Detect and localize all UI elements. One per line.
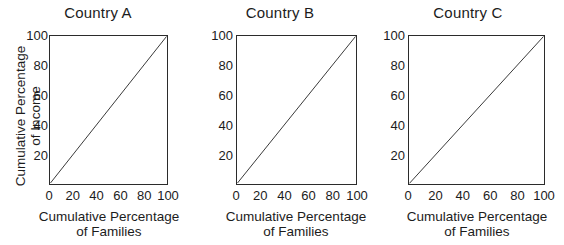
x-axis-label-line1: Cumulative Percentage: [407, 209, 547, 224]
panel-title-country-c: Country C: [388, 4, 548, 21]
y-axis-label-line1: Cumulative Percentage: [13, 46, 28, 186]
y-tick-label: 60: [391, 89, 405, 102]
y-tick-label: 20: [391, 149, 405, 162]
x-tick-label: 20: [66, 189, 80, 202]
x-axis-label-line2: of Families: [24, 224, 194, 239]
x-tick-label: 80: [137, 189, 151, 202]
x-tick-label: 40: [456, 189, 470, 202]
panel-country-b: Country B 100 80 60 40 20 0 20 40 60 80 …: [190, 0, 370, 245]
y-tick-label: 20: [34, 149, 48, 162]
y-tick-label: 40: [219, 119, 233, 132]
x-tick-label: 40: [89, 189, 103, 202]
panel-country-a: Country A Cumulative Percentage of Incom…: [0, 0, 190, 245]
y-tick-label: 60: [34, 89, 48, 102]
y-tick-label: 40: [34, 119, 48, 132]
x-axis-label-country-a: Cumulative Percentage of Families: [24, 209, 194, 239]
y-tick-label: 40: [391, 119, 405, 132]
x-tick-label: 60: [483, 189, 497, 202]
x-tick-label: 100: [157, 189, 179, 202]
x-tick-label: 0: [45, 189, 52, 202]
y-tick-label: 80: [391, 59, 405, 72]
x-axis-label-country-b: Cumulative Percentage of Families: [211, 209, 381, 239]
y-tick-label: 80: [219, 59, 233, 72]
x-axis-label-line1: Cumulative Percentage: [226, 209, 366, 224]
x-axis-label-line1: Cumulative Percentage: [39, 209, 179, 224]
x-tick-label: 80: [510, 189, 524, 202]
y-tick-label: 20: [219, 149, 233, 162]
y-tick-label: 100: [383, 29, 405, 42]
x-tick-labels-c: 0 20 40 60 80 100: [370, 189, 564, 205]
x-tick-label: 40: [277, 189, 291, 202]
x-tick-labels-b: 0 20 40 60 80 100: [190, 189, 370, 205]
y-tick-label: 100: [26, 29, 48, 42]
x-axis-label-line2: of Families: [211, 224, 381, 239]
equality-line-country-a: [50, 36, 167, 183]
x-tick-label: 80: [326, 189, 340, 202]
panel-title-country-a: Country A: [18, 4, 178, 21]
x-tick-label: 0: [404, 189, 411, 202]
equality-line-country-b: [237, 36, 356, 184]
y-tick-label: 60: [219, 89, 233, 102]
plot-area-country-c: [408, 35, 545, 185]
x-tick-label: 0: [232, 189, 239, 202]
x-axis-label-country-c: Cumulative Percentage of Families: [392, 209, 562, 239]
x-tick-label: 20: [428, 189, 442, 202]
x-tick-label: 60: [113, 189, 127, 202]
y-tick-label: 80: [34, 59, 48, 72]
x-tick-label: 60: [301, 189, 315, 202]
x-tick-label: 20: [253, 189, 267, 202]
x-axis-label-line2: of Families: [392, 224, 562, 239]
plot-area-country-b: [236, 35, 357, 185]
panel-title-country-b: Country B: [200, 4, 360, 21]
panel-country-c: Country C 100 80 60 40 20 0 20 40 60 80 …: [370, 0, 564, 245]
x-tick-labels-a: 0 20 40 60 80 100: [0, 189, 190, 205]
x-tick-label: 100: [346, 189, 368, 202]
equality-line-country-c: [409, 36, 544, 184]
plot-area-country-a: [49, 35, 168, 185]
y-tick-label: 100: [211, 29, 233, 42]
lorenz-curve-figure: Country A Cumulative Percentage of Incom…: [0, 0, 564, 245]
x-tick-label: 100: [533, 189, 555, 202]
